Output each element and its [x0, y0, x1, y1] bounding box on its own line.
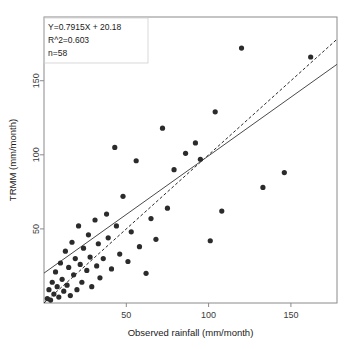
- data-point: [239, 46, 244, 51]
- data-point: [112, 145, 117, 150]
- data-point: [134, 158, 139, 163]
- x-tick-label: 50: [121, 310, 131, 320]
- data-point: [198, 157, 203, 162]
- annotation-line: R^2=0.603: [48, 35, 89, 45]
- data-point: [148, 216, 153, 221]
- data-point: [183, 151, 188, 156]
- data-point: [96, 241, 101, 246]
- y-axis-title: TRMM (mm/month): [7, 119, 18, 201]
- data-point: [79, 280, 84, 285]
- data-point: [160, 126, 165, 131]
- data-point: [87, 254, 92, 259]
- data-point: [213, 109, 218, 114]
- data-point: [51, 292, 56, 297]
- data-point: [71, 272, 76, 277]
- data-point: [308, 54, 313, 59]
- x-tick-label: 150: [283, 310, 298, 320]
- data-point: [63, 249, 68, 254]
- data-point: [69, 240, 74, 245]
- data-point: [60, 277, 65, 282]
- data-point: [48, 297, 53, 302]
- data-point: [84, 268, 89, 273]
- data-point: [50, 280, 55, 285]
- annotation-line: Y=0.7915X + 20.18: [48, 22, 122, 32]
- data-point: [64, 283, 69, 288]
- data-point: [89, 284, 94, 289]
- data-point: [125, 259, 130, 264]
- annotation-line: n=58: [48, 48, 67, 58]
- data-point: [193, 140, 198, 145]
- data-point: [73, 256, 78, 261]
- data-point: [68, 293, 73, 298]
- data-point: [104, 211, 109, 216]
- data-point: [114, 223, 119, 228]
- x-axis-title: Observed rainfall (mm/month): [128, 327, 254, 338]
- data-point: [120, 194, 125, 199]
- data-point: [101, 256, 106, 261]
- data-point: [56, 294, 61, 299]
- data-point: [129, 229, 134, 234]
- scatter-chart: 5010015050100150Observed rainfall (mm/mo…: [0, 0, 357, 349]
- data-point: [171, 167, 176, 172]
- data-point: [260, 185, 265, 190]
- data-point: [66, 265, 71, 270]
- data-point: [46, 287, 51, 292]
- y-tick-label: 50: [31, 224, 41, 234]
- data-point: [76, 223, 81, 228]
- data-point: [58, 260, 63, 265]
- data-point: [109, 266, 114, 271]
- data-point: [97, 275, 102, 280]
- data-point: [219, 209, 224, 214]
- data-point: [92, 217, 97, 222]
- data-point: [81, 246, 86, 251]
- data-point: [165, 206, 170, 211]
- data-point: [53, 269, 58, 274]
- data-point: [143, 271, 148, 276]
- data-point: [86, 232, 91, 237]
- data-point: [106, 235, 111, 240]
- chart-canvas: 5010015050100150Observed rainfall (mm/mo…: [0, 0, 357, 349]
- data-point: [153, 237, 158, 242]
- data-point: [137, 244, 142, 249]
- x-tick-label: 100: [201, 310, 216, 320]
- data-point: [282, 170, 287, 175]
- data-point: [208, 238, 213, 243]
- data-point: [94, 263, 99, 268]
- data-point: [117, 251, 122, 256]
- data-point: [74, 287, 79, 292]
- y-tick-label: 150: [31, 73, 41, 88]
- data-point: [55, 284, 60, 289]
- y-tick-label: 100: [31, 147, 41, 162]
- data-point: [61, 289, 66, 294]
- data-point: [78, 262, 83, 267]
